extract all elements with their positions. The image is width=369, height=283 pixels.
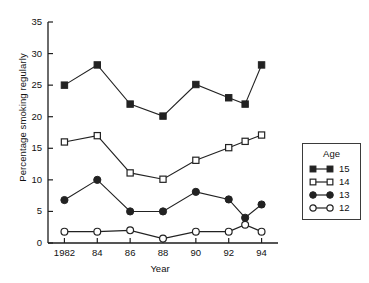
legend-item-age-15: 15 bbox=[303, 162, 360, 175]
x-tick-label: 90 bbox=[179, 247, 213, 258]
y-tick-label: 0 bbox=[20, 237, 42, 248]
chart-screenshot: 051015202530351982848688909294 Percentag… bbox=[0, 0, 369, 283]
legend-swatch-open-circle bbox=[308, 202, 336, 214]
y-tick-label: 35 bbox=[20, 16, 42, 27]
series-line-14 bbox=[64, 135, 261, 179]
y-tick-label: 5 bbox=[20, 205, 42, 216]
x-tick-label: 1982 bbox=[47, 247, 81, 258]
x-tick-label: 86 bbox=[113, 247, 147, 258]
legend: Age 15141312 bbox=[302, 143, 361, 220]
plot-canvas bbox=[0, 0, 292, 283]
legend-swatch-open-square bbox=[308, 176, 336, 188]
y-axis-ticks bbox=[48, 22, 53, 243]
series-markers bbox=[61, 62, 265, 242]
x-tick-label: 84 bbox=[80, 247, 114, 258]
series-markers-15 bbox=[61, 62, 265, 120]
legend-swatch-filled-square bbox=[308, 163, 336, 175]
x-axis-title: Year bbox=[40, 263, 280, 274]
legend-label: 12 bbox=[339, 202, 350, 214]
series-line-15 bbox=[64, 65, 261, 116]
legend-swatch-filled-circle bbox=[308, 189, 336, 201]
line-chart: 051015202530351982848688909294 Percentag… bbox=[0, 0, 292, 283]
x-tick-label: 94 bbox=[245, 247, 279, 258]
legend-label: 15 bbox=[339, 163, 350, 175]
legend-item-age-13: 13 bbox=[303, 188, 360, 201]
legend-label: 14 bbox=[339, 176, 350, 188]
x-tick-label: 92 bbox=[212, 247, 246, 258]
legend-label: 13 bbox=[339, 189, 350, 201]
legend-item-age-12: 12 bbox=[303, 201, 360, 214]
legend-rows: 15141312 bbox=[303, 162, 360, 214]
x-tick-label: 88 bbox=[146, 247, 180, 258]
legend-item-age-14: 14 bbox=[303, 175, 360, 188]
legend-title: Age bbox=[303, 148, 360, 159]
y-axis-title: Percentage smoking regularly bbox=[17, 33, 28, 203]
series-markers-14 bbox=[61, 132, 264, 182]
